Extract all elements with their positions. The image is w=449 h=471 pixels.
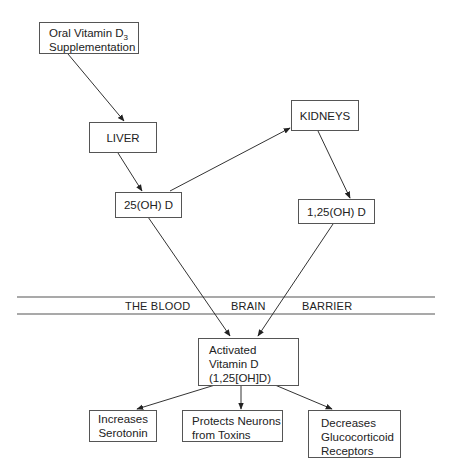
edge-oral-to-liver xyxy=(68,54,124,121)
node-serotonin-line2: Serotonin xyxy=(98,426,147,440)
edge-kidneys-to-125oh xyxy=(318,131,350,198)
barrier-text-brain: BRAIN xyxy=(231,300,266,312)
node-glucocorticoid-line2: Glucocorticoid xyxy=(321,430,400,444)
node-activated-line1: Activated xyxy=(209,343,298,357)
node-neurons-line2: from Toxins xyxy=(192,428,282,442)
node-125oh-d-label: 1,25(OH) D xyxy=(307,205,366,219)
diagram-edges xyxy=(0,0,449,471)
node-kidneys-label: KIDNEYS xyxy=(300,109,351,123)
edge-25oh-to-kidneys xyxy=(170,128,290,191)
node-activated-line2: Vitamin D xyxy=(209,357,298,371)
barrier-text-the-blood: THE BLOOD xyxy=(125,300,190,312)
edge-125oh-to-activated xyxy=(258,224,333,336)
node-25oh-d-label: 25(OH) D xyxy=(124,198,173,212)
node-serotonin-line1: Increases xyxy=(98,412,148,426)
barrier-text-barrier: BARRIER xyxy=(302,300,352,312)
node-glucocorticoid-line3: Receptors xyxy=(321,444,400,458)
node-protects-neurons: Protects Neurons from Toxins xyxy=(182,410,283,442)
edge-activated-to-serotonin xyxy=(137,385,215,409)
node-oral-line2: Supplementation xyxy=(49,40,138,54)
edge-activated-to-glucocorticoid xyxy=(275,385,332,409)
node-decreases-glucocorticoid: Decreases Glucocorticoid Receptors xyxy=(308,410,401,458)
node-neurons-line1: Protects Neurons xyxy=(192,414,282,428)
node-increases-serotonin: Increases Serotonin xyxy=(89,410,157,442)
edge-25oh-to-activated xyxy=(148,217,230,336)
node-oral-line1: Oral Vitamin D xyxy=(49,27,124,39)
node-125oh-d: 1,25(OH) D xyxy=(298,199,375,224)
node-activated-line3: (1,25[OH]D) xyxy=(209,371,298,385)
node-liver-label: LIVER xyxy=(106,131,139,145)
node-25oh-d: 25(OH) D xyxy=(115,192,182,218)
node-liver: LIVER xyxy=(89,122,157,153)
edge-liver-to-25oh xyxy=(118,153,142,191)
node-activated-vitamin-d: Activated Vitamin D (1,25[OH]D) xyxy=(198,338,299,386)
node-oral-vitamin-d3: Oral Vitamin D3 Supplementation xyxy=(39,22,139,54)
node-glucocorticoid-line1: Decreases xyxy=(321,416,400,430)
node-kidneys: KIDNEYS xyxy=(291,100,359,131)
